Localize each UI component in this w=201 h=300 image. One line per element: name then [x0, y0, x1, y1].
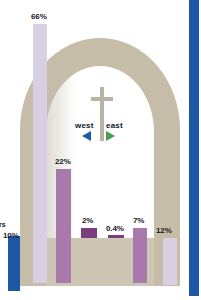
- bar-22: [56, 169, 71, 283]
- bar-label-7: 7%: [133, 216, 144, 225]
- bar-label-66: 66%: [31, 12, 47, 21]
- bar-label-0-4: 0.4%: [106, 224, 124, 233]
- triangle-left-icon: [82, 131, 91, 141]
- bar-label-12: 12%: [156, 226, 172, 235]
- legend-west-label: west: [75, 121, 94, 130]
- cross-icon-arm: [91, 97, 113, 101]
- infographic-canvas: west east rs 10% 66% 22% 2% 0.4% 7% 12%: [0, 0, 201, 300]
- bar-label-2: 2%: [82, 216, 93, 225]
- bar-label-10: 10%: [3, 231, 19, 240]
- bar-label-22: 22%: [55, 157, 71, 166]
- bar-2: [81, 228, 97, 238]
- legend-east-label: east: [106, 121, 123, 130]
- cross-icon: [100, 87, 104, 141]
- bar-12: [163, 238, 177, 285]
- triangle-right-icon: [106, 131, 115, 141]
- right-blue-rail: [189, 0, 199, 296]
- bar-7: [133, 228, 147, 283]
- bar-0-4: [108, 235, 124, 238]
- bar-66: [33, 24, 47, 283]
- side-partial-label: rs: [0, 221, 6, 228]
- left-blue-rail: [8, 236, 20, 291]
